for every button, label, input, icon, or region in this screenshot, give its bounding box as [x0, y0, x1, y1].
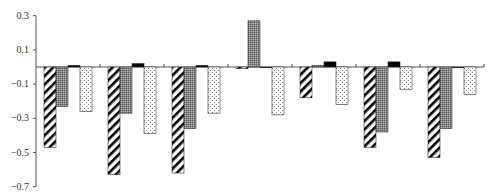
bar-series-3-cat-7	[452, 67, 464, 68]
bar-series-2-cat-6	[376, 67, 388, 132]
bar-series-4-cat-2	[144, 67, 156, 134]
bar-series-3-cat-4	[260, 67, 272, 68]
bars	[44, 21, 476, 175]
bar-series-4-cat-7	[464, 67, 476, 94]
bar-series-4-cat-6	[400, 67, 412, 89]
bar-series-2-cat-2	[120, 67, 132, 113]
bar-series-3-cat-6	[388, 62, 400, 67]
bar-series-3-cat-1	[68, 65, 80, 67]
bar-series-3-cat-5	[324, 62, 336, 67]
bar-series-1-cat-1	[44, 67, 56, 147]
bar-series-3-cat-2	[132, 64, 144, 67]
bar-series-1-cat-7	[428, 67, 440, 158]
bar-series-1-cat-6	[364, 67, 376, 147]
bar-series-1-cat-4	[236, 67, 248, 69]
bar-series-1-cat-3	[172, 67, 184, 173]
bar-series-2-cat-7	[440, 67, 452, 129]
bar-series-2-cat-5	[312, 65, 324, 67]
bar-series-2-cat-1	[56, 67, 68, 106]
bar-series-4-cat-1	[80, 67, 92, 111]
bar-series-1-cat-2	[108, 67, 120, 175]
bar-series-2-cat-3	[184, 67, 196, 129]
bar-series-3-cat-3	[196, 65, 208, 67]
bar-series-4-cat-5	[336, 67, 348, 105]
bar-series-4-cat-3	[208, 67, 220, 113]
bar-series-1-cat-5	[300, 67, 312, 98]
bar-series-2-cat-4	[248, 21, 260, 67]
bar-series-4-cat-4	[272, 67, 284, 115]
bar-chart	[0, 0, 493, 196]
